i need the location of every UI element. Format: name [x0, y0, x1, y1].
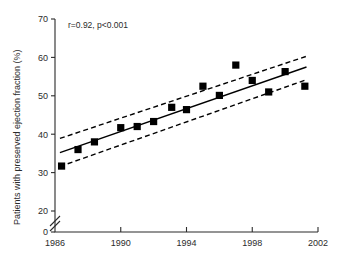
x-tick-label: 1990 — [111, 238, 131, 248]
data-point-marker — [168, 104, 175, 111]
confidence-band-line — [60, 56, 307, 138]
data-point-marker — [58, 162, 65, 169]
data-point-marker — [150, 118, 157, 125]
x-tick-label: 2002 — [308, 238, 328, 248]
data-point-marker — [117, 124, 124, 131]
y-tick-label: 0 — [43, 227, 48, 237]
chart-figure: Patients with preserved ejection fractio… — [0, 0, 342, 268]
y-tick-label: 60 — [38, 53, 48, 63]
data-point-marker — [301, 83, 308, 90]
axes — [55, 19, 318, 232]
y-tick-label: 30 — [38, 168, 48, 178]
data-points — [58, 61, 308, 169]
data-point-marker — [265, 88, 272, 95]
y-tick-label: 20 — [38, 206, 48, 216]
x-tick-label: 1986 — [45, 238, 65, 248]
axis-lines — [55, 19, 318, 232]
correlation-annotation-text: r=0.92, p<0.001 — [68, 20, 128, 30]
data-point-marker — [232, 61, 239, 68]
y-axis-title-text: Patients with preserved ejection fractio… — [12, 49, 22, 225]
scatter-plot-canvas: Patients with preserved ejection fractio… — [0, 0, 342, 268]
y-tick-label: 40 — [38, 130, 48, 140]
data-point-marker — [216, 92, 223, 99]
data-point-marker — [183, 106, 190, 113]
data-point-marker — [282, 68, 289, 75]
correlation-annotation: r=0.92, p<0.001 — [68, 20, 128, 30]
data-point-marker — [134, 123, 141, 130]
x-tick-label: 1998 — [242, 238, 262, 248]
y-tick-label: 50 — [38, 91, 48, 101]
y-tick-label: 70 — [38, 14, 48, 24]
y-axis-ticks: 0203040506070 — [38, 14, 55, 237]
data-point-marker — [74, 146, 81, 153]
y-axis-title: Patients with preserved ejection fractio… — [12, 49, 22, 225]
x-axis-ticks: 19861990199419982002 — [45, 227, 328, 248]
data-point-marker — [249, 77, 256, 84]
data-point-marker — [91, 138, 98, 145]
data-point-marker — [199, 83, 206, 90]
x-tick-label: 1994 — [176, 238, 196, 248]
